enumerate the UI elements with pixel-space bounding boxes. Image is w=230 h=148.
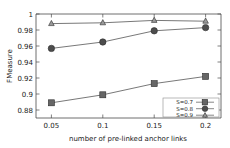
series-s08-marker — [100, 39, 106, 45]
x-tick-label: 0.15 — [146, 122, 162, 130]
chart-screenshot: 0.88 0.9 0.92 0.94 0.96 0.98 1 0.05 0.1 … — [0, 0, 230, 148]
legend-label-s07: S=0.7 — [176, 99, 193, 105]
fmeasure-line-chart: 0.88 0.9 0.92 0.94 0.96 0.98 1 0.05 0.1 … — [0, 0, 230, 148]
y-tick-label: 0.88 — [17, 107, 33, 115]
y-tick-label: 0.94 — [17, 59, 33, 67]
y-tick-label: 0.92 — [17, 75, 33, 83]
y-tick-label: 0.9 — [22, 91, 33, 99]
y-tick-label: 0.98 — [17, 27, 33, 35]
legend-marker-square-icon — [202, 100, 207, 105]
series-s08-marker — [48, 45, 54, 51]
series-s07-marker — [48, 100, 54, 106]
series-s07-marker — [151, 81, 157, 87]
y-axis-title: FMeasure — [6, 49, 14, 83]
y-tick-label: 1 — [29, 11, 33, 19]
y-tick-label: 0.96 — [17, 43, 33, 51]
series-s08-marker — [202, 24, 208, 30]
x-tick-label: 0.05 — [44, 122, 60, 130]
legend-label-s09: S=0.9 — [176, 112, 193, 118]
legend-marker-circle-icon — [202, 106, 208, 112]
x-axis-title: number of pre-linked anchor links — [69, 135, 187, 143]
legend-label-s08: S=0.8 — [176, 106, 193, 112]
series-s07-marker — [100, 92, 106, 98]
x-tick-label: 0.1 — [97, 122, 108, 130]
chart-legend: S=0.7 S=0.8 S=0.9 — [163, 98, 219, 118]
series-s08-marker — [151, 28, 157, 34]
x-tick-label: 0.2 — [200, 122, 211, 130]
series-s07-marker — [203, 73, 209, 79]
